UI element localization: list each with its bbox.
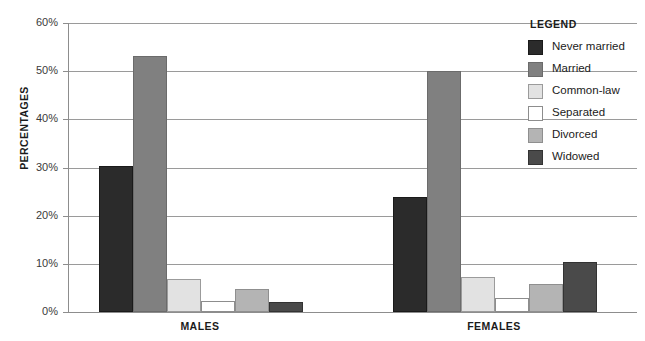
y-axis-tick-label: 20% (0, 210, 58, 221)
y-axis-tick-label: 30% (0, 162, 58, 173)
x-axis-group-label: MALES (140, 320, 260, 332)
legend-item-label: Common-law (552, 85, 620, 97)
y-axis-tick-label: 0% (0, 306, 58, 317)
y-axis-tick-mark (63, 264, 69, 265)
y-axis-tick-mark (63, 23, 69, 24)
y-axis-tick-mark (63, 312, 69, 313)
x-axis-group-label: FEMALES (434, 320, 554, 332)
legend-swatch-icon (528, 128, 543, 143)
legend-item-label: Married (552, 63, 591, 75)
bar (133, 56, 167, 312)
bar (495, 298, 529, 312)
y-axis-tick-mark (63, 168, 69, 169)
legend-item: Never married (528, 37, 640, 57)
legend-swatch-icon (528, 40, 543, 55)
y-axis-title: PERCENTAGES (18, 58, 30, 198)
bar (167, 279, 201, 312)
legend-swatch-icon (528, 106, 543, 121)
bar (269, 302, 303, 312)
bar (201, 301, 235, 312)
legend-item: Married (528, 59, 640, 79)
y-axis-tick-mark (63, 71, 69, 72)
legend-items: Never marriedMarriedCommon-lawSeparatedD… (528, 37, 640, 167)
bar (235, 289, 269, 312)
legend-item: Common-law (528, 81, 640, 101)
legend: LEGEND Never marriedMarriedCommon-lawSep… (528, 18, 640, 169)
y-axis-tick-mark (63, 119, 69, 120)
bar (563, 262, 597, 312)
bar-chart: PERCENTAGES 0%10%20%30%40%50%60% MALESFE… (0, 0, 645, 341)
bar (461, 277, 495, 312)
bar (529, 284, 563, 312)
legend-item-label: Separated (552, 107, 605, 119)
legend-item: Divorced (528, 125, 640, 145)
y-axis-tick-label: 60% (0, 17, 58, 28)
legend-title: LEGEND (530, 18, 640, 30)
legend-swatch-icon (528, 62, 543, 77)
gridline (69, 312, 637, 313)
legend-item-label: Never married (552, 41, 625, 53)
y-axis-tick-label: 40% (0, 113, 58, 124)
legend-swatch-icon (528, 84, 543, 99)
legend-item: Widowed (528, 147, 640, 167)
bar (427, 71, 461, 312)
legend-item-label: Divorced (552, 129, 597, 141)
legend-item-label: Widowed (552, 151, 599, 163)
legend-swatch-icon (528, 150, 543, 165)
legend-item: Separated (528, 103, 640, 123)
y-axis-tick-label: 10% (0, 258, 58, 269)
y-axis-tick-mark (63, 216, 69, 217)
bar (393, 197, 427, 312)
bar (99, 166, 133, 312)
y-axis-tick-label: 50% (0, 65, 58, 76)
